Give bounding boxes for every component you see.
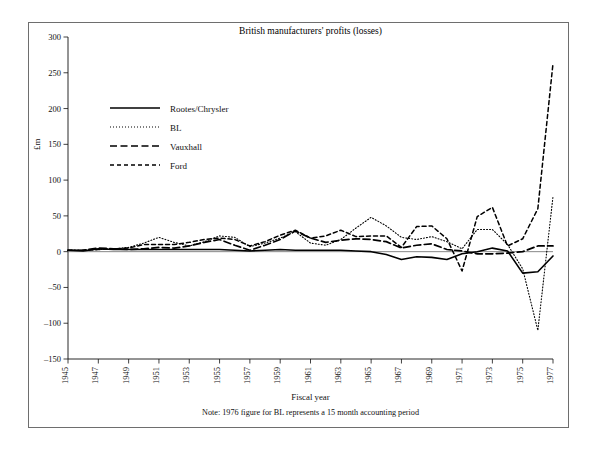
x-tick-label: 1963: [333, 367, 343, 384]
x-tick-label: 1977: [545, 367, 555, 384]
x-tick-label: 1959: [272, 367, 282, 384]
y-tick-label: 150: [48, 139, 61, 149]
y-tick-label: 250: [48, 68, 61, 78]
x-tick-label: 1945: [60, 367, 70, 384]
y-tick-label: –100: [43, 318, 61, 328]
series-line-ford: [68, 63, 553, 271]
axis-spine: [68, 37, 553, 359]
x-tick-label: 1955: [212, 367, 222, 384]
x-tick-label: 1967: [393, 367, 403, 384]
chart-note: Note: 1976 figure for BL represents a 15…: [202, 408, 419, 417]
legend-label-vauxhall: Vauxhall: [170, 142, 202, 152]
x-tick-label: 1947: [90, 367, 100, 384]
legend-label-ford: Ford: [170, 161, 188, 171]
y-tick-label: –50: [47, 282, 61, 292]
x-tick-label: 1971: [454, 367, 464, 384]
x-tick-label: 1953: [181, 367, 191, 384]
line-chart: 300250200150100500–50–100–15019451947194…: [0, 0, 599, 452]
legend-label-bl: BL: [170, 123, 182, 133]
y-tick-label: 50: [53, 211, 62, 221]
x-tick-label: 1965: [363, 367, 373, 384]
x-tick-label: 1949: [121, 367, 131, 384]
y-tick-label: 300: [48, 32, 61, 42]
y-tick-label: –150: [43, 354, 61, 364]
y-tick-label: 200: [48, 104, 61, 114]
x-tick-label: 1961: [303, 367, 313, 384]
x-tick-label: 1969: [424, 367, 434, 384]
x-tick-label: 1975: [515, 367, 525, 384]
series-line-bl: [68, 197, 553, 331]
x-tick-label: 1951: [151, 367, 161, 384]
x-tick-label: 1973: [484, 367, 494, 384]
figure-root: 300250200150100500–50–100–15019451947194…: [0, 0, 599, 452]
y-axis-label: £m: [32, 139, 42, 150]
y-tick-label: 0: [57, 247, 61, 257]
chart-title: British manufacturers' profits (losses): [239, 26, 382, 37]
y-tick-label: 100: [48, 175, 61, 185]
legend-label-rootes-chrysler: Rootes/Chrysler: [170, 104, 229, 114]
x-tick-label: 1957: [242, 367, 252, 384]
x-axis-label: Fiscal year: [291, 392, 329, 402]
